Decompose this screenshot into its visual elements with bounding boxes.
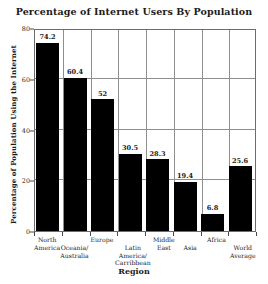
x-category-label-line: Middle	[151, 236, 177, 244]
bar	[91, 99, 114, 231]
y-axis-title: Percentage of Population Using the Inter…	[9, 30, 18, 240]
bar	[64, 78, 87, 231]
bar-value-label: 30.5	[119, 144, 142, 152]
x-category-label-line: Average	[230, 252, 256, 260]
bar-cell: 19.4	[173, 30, 201, 231]
bar-value-label: 52	[91, 90, 114, 98]
x-category-label-line: America	[34, 244, 60, 252]
y-tick-label-40: 40	[8, 127, 30, 135]
x-axis-title: Region	[0, 266, 268, 276]
bar	[174, 182, 197, 231]
bar-series: 74.260.45230.528.319.46.825.6	[35, 30, 255, 231]
chart-title: Percentage of Internet Users By Populati…	[0, 6, 268, 17]
x-category-label-line: Oceania/	[60, 244, 88, 252]
bar-cell: 6.8	[200, 30, 228, 231]
x-category-label-line: Africa	[203, 236, 229, 244]
bar-cell: 28.3	[145, 30, 173, 231]
bar-cell: 74.2	[35, 30, 63, 231]
bar	[119, 154, 142, 231]
bar-value-label: 28.3	[146, 150, 169, 158]
x-category-label-line: America/	[115, 252, 151, 260]
x-category-label-line: Asia	[177, 244, 203, 252]
bar	[201, 214, 224, 231]
y-tick-label-20: 20	[8, 177, 30, 185]
x-category-label-line: East	[151, 244, 177, 252]
bar-value-label: 6.8	[201, 204, 224, 212]
bar-value-label: 19.4	[174, 172, 197, 180]
x-category-label-line: Latin	[115, 244, 151, 252]
x-category-label-line: World	[230, 244, 256, 252]
y-tick-label-60: 60	[8, 76, 30, 84]
bar-cell: 30.5	[118, 30, 146, 231]
x-category-label-line: Australia	[60, 252, 88, 260]
plot-area: 74.260.45230.528.319.46.825.6	[34, 29, 256, 232]
bar-value-label: 60.4	[64, 68, 87, 76]
x-category-label-line: North	[34, 236, 60, 244]
bar	[146, 159, 169, 231]
bar	[229, 166, 252, 231]
x-category-label-line: Europe	[89, 236, 115, 244]
y-tick-label-0: 0	[8, 228, 30, 236]
bar-cell: 52	[90, 30, 118, 231]
bar-chart: Percentage of Internet Users By Populati…	[0, 0, 268, 284]
bar-value-label: 25.6	[229, 157, 252, 165]
y-tick-label-80: 80	[8, 25, 30, 33]
bar-value-label: 74.2	[36, 33, 59, 41]
bar	[36, 43, 59, 231]
bar-cell: 25.6	[228, 30, 256, 231]
bar-cell: 60.4	[63, 30, 91, 231]
x-tick-mark-8	[256, 232, 257, 236]
